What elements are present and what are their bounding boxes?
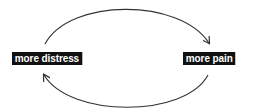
arrow-pain-to-distress xyxy=(44,75,208,107)
node-more-distress: more distress xyxy=(12,52,82,65)
arrow-distress-to-pain xyxy=(45,9,209,44)
feedback-cycle-diagram: more distress more pain xyxy=(0,0,253,111)
node-more-pain: more pain xyxy=(183,52,236,65)
node-label: more distress xyxy=(15,52,79,64)
node-label: more pain xyxy=(186,52,233,64)
